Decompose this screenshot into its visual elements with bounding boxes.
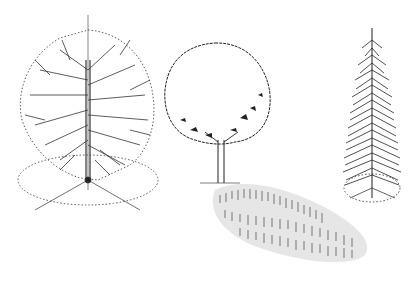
tree-illustration [0,0,420,281]
deciduous-tree [18,15,158,210]
tree-sketch-svg [0,0,420,281]
cast-shadow-hatch [213,184,367,262]
conifer-tree [343,28,401,202]
round-crown-tree [165,43,270,183]
